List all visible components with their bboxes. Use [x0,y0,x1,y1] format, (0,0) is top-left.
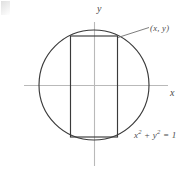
equation-middle: + y [142,130,157,140]
point-coordinate-label: (x, y) [150,24,169,33]
point-leader-line [118,28,149,38]
x-axis-label: x [170,88,174,98]
circle-equation-label: x2 + y2 = 1 [134,129,176,140]
geometry-figure: y x (x, y) x2 + y2 = 1 [0,0,193,175]
y-axis-label: y [97,4,101,14]
equation-tail: = 1 [160,130,176,140]
